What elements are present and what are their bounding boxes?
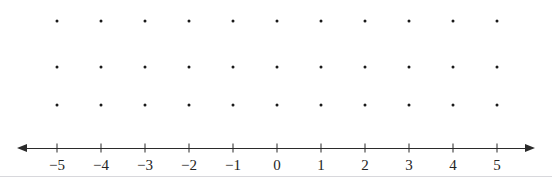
axis-tick [101, 144, 102, 153]
number-line-figure: −5−4−3−2−1012345 [0, 0, 552, 185]
axis-tick [189, 144, 190, 153]
axis-tick-label: 1 [317, 156, 325, 174]
axis-tick [145, 144, 146, 153]
axis-tick [57, 144, 58, 153]
axis-tick [497, 144, 498, 153]
axis-tick [277, 144, 278, 153]
bottom-divider [0, 176, 552, 177]
axis-tick [409, 144, 410, 153]
axis-arrow-right-icon [525, 144, 535, 152]
axis-tick-label: 0 [273, 156, 281, 174]
axis-tick [233, 144, 234, 153]
axis-tick [321, 144, 322, 153]
axis-tick [365, 144, 366, 153]
number-line: −5−4−3−2−1012345 [0, 0, 552, 185]
axis-tick [453, 144, 454, 153]
axis-tick-label: −4 [93, 156, 109, 174]
axis-tick-label: −3 [137, 156, 153, 174]
axis-tick-label: −1 [225, 156, 241, 174]
axis-tick-label: −5 [49, 156, 65, 174]
axis-tick-label: 2 [361, 156, 369, 174]
axis-tick-label: −2 [181, 156, 197, 174]
axis-arrow-left-icon [17, 144, 27, 152]
axis-tick-label: 4 [449, 156, 457, 174]
axis-tick-label: 3 [405, 156, 413, 174]
axis-tick-label: 5 [493, 156, 501, 174]
